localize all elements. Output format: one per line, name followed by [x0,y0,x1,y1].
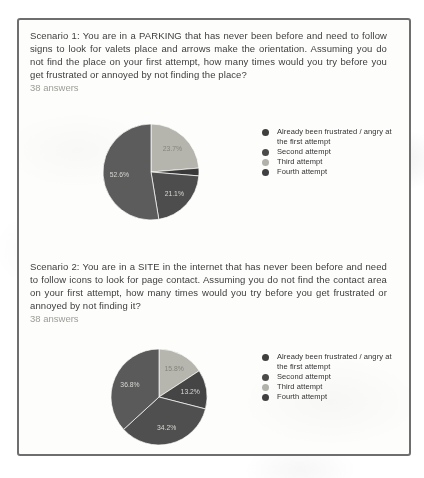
pie-slice-label: 15.8% [164,365,183,372]
pie-slice-label: 36.8% [120,381,139,388]
legend-dot-third-attempt [262,384,269,391]
legend-dot-second-attempt [262,374,269,381]
legend-scenario-1: Already been frustrated / angry at the f… [262,122,404,177]
legend-dot-second-attempt [262,149,269,156]
legend-label-third-attempt: Third attempt [277,157,322,167]
pie-slice-label: 52.6% [110,171,129,178]
pie-slice-label: 34.2% [157,424,176,431]
pie-slice-label: 21.1% [165,190,184,197]
pie-chart-svg: 23.7%21.1%52.6% [101,122,201,222]
legend-label-first-attempt: Already been frustrated / angry at the f… [277,127,404,147]
legend-item-third-attempt: Third attempt [262,382,404,392]
legend-item-fourth-attempt: Fourth attempt [262,392,404,402]
legend-label-second-attempt: Second attempt [277,372,331,382]
results-card: Scenario 1: You are in a PARKING that ha… [17,18,411,456]
legend-item-second-attempt: Second attempt [262,147,404,157]
pie-slice-label: 23.7% [163,145,182,152]
pie-chart-svg: 15.8%13.2%34.2%36.8% [109,347,209,447]
answers-count-scenario-2: 38 answers [30,312,399,325]
legend-label-fourth-attempt: Fourth attempt [277,392,327,402]
legend-dot-first-attempt [262,129,269,136]
question-scenario-1: Scenario 1: You are in a PARKING that ha… [30,29,387,81]
legend-dot-fourth-attempt [262,394,269,401]
question-scenario-2: Scenario 2: You are in a SITE in the int… [30,260,387,312]
legend-label-fourth-attempt: Fourth attempt [277,167,327,177]
legend-label-first-attempt: Already been frustrated / angry at the f… [277,352,404,372]
legend-item-third-attempt: Third attempt [262,157,404,167]
legend-item-fourth-attempt: Fourth attempt [262,167,404,177]
legend-dot-first-attempt [262,354,269,361]
legend-item-first-attempt: Already been frustrated / angry at the f… [262,352,404,372]
pie-chart-scenario-2: 15.8%13.2%34.2%36.8% [109,347,209,447]
pie-slice-label: 13.2% [181,388,200,395]
legend-label-third-attempt: Third attempt [277,382,322,392]
chart-row-scenario-2: 15.8%13.2%34.2%36.8% Already been frustr… [30,347,399,447]
results-card-content: Scenario 1: You are in a PARKING that ha… [19,20,409,447]
answers-count-scenario-1: 38 answers [30,81,399,94]
legend-label-second-attempt: Second attempt [277,147,331,157]
chart-row-scenario-1: 23.7%21.1%52.6% Already been frustrated … [30,122,399,222]
legend-item-second-attempt: Second attempt [262,372,404,382]
legend-dot-fourth-attempt [262,169,269,176]
legend-item-first-attempt: Already been frustrated / angry at the f… [262,127,404,147]
legend-scenario-2: Already been frustrated / angry at the f… [262,347,404,402]
pie-chart-scenario-1: 23.7%21.1%52.6% [101,122,201,222]
legend-dot-third-attempt [262,159,269,166]
